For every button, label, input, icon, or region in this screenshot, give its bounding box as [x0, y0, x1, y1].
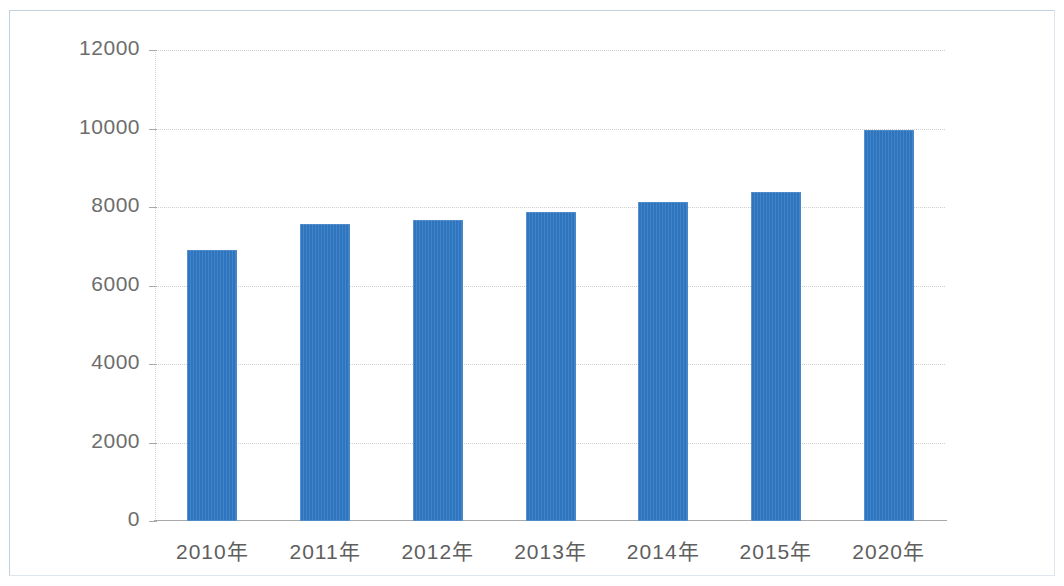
y-axis-tick-label: 10000: [40, 115, 140, 139]
y-axis-tick-label: 4000: [40, 350, 140, 374]
bar: [864, 130, 914, 521]
gridline: [156, 50, 945, 51]
bar: [526, 212, 576, 521]
y-axis-tick-label: 2000: [40, 429, 140, 453]
bar: [751, 192, 801, 521]
y-axis-tick-label: 6000: [40, 272, 140, 296]
gridline: [156, 207, 945, 208]
x-axis-tick-label: 2020年: [814, 535, 964, 565]
bar: [413, 220, 463, 521]
y-axis-tick: [149, 207, 157, 208]
gridline: [156, 129, 945, 130]
y-axis-tick: [149, 129, 157, 130]
plot-area: [156, 50, 945, 521]
y-axis-tick-labels: 020004000600080001000012000: [36, 0, 140, 586]
bar: [187, 250, 237, 521]
bar-chart-figure: 020004000600080001000012000 2010年2011年20…: [0, 0, 1064, 586]
bar: [300, 224, 350, 521]
y-axis-tick-label: 12000: [40, 36, 140, 60]
y-axis-tick: [149, 286, 157, 287]
y-axis-tick: [149, 521, 157, 522]
y-axis-tick: [149, 364, 157, 365]
y-axis-tick-label: 0: [40, 507, 140, 531]
bar: [638, 202, 688, 521]
y-axis-tick: [149, 443, 157, 444]
y-axis-tick-label: 8000: [40, 193, 140, 217]
y-axis-tick: [149, 50, 157, 51]
